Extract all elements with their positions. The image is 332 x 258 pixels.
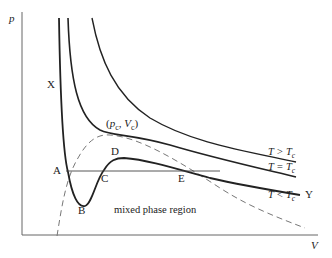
isotherm-label-above: T > Tc	[268, 146, 296, 160]
critical-point-label: (pc, Vc)	[106, 117, 139, 132]
label-x: X	[47, 78, 55, 90]
pv-diagram: p V X A B C D E Y (pc, Vc) mixed phase r…	[0, 0, 332, 258]
label-e: E	[178, 172, 185, 184]
isotherm-critical	[68, 18, 296, 177]
y-axis-label: p	[8, 12, 15, 24]
isotherm-above-critical	[92, 18, 296, 162]
isotherm-label-below: T < Tc	[268, 189, 296, 203]
x-axis-label: V	[311, 239, 319, 251]
label-y: Y	[305, 188, 313, 200]
label-a: A	[53, 164, 61, 176]
label-c: C	[101, 172, 108, 184]
label-b: B	[78, 204, 85, 216]
mixed-phase-region-label: mixed phase region	[114, 204, 197, 215]
label-d: D	[111, 145, 119, 157]
